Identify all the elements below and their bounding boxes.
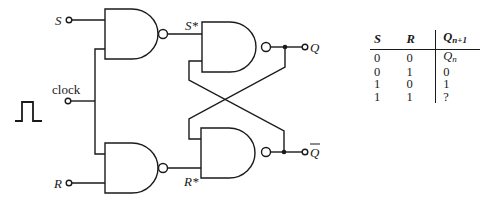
nand-gate-q [202,22,256,72]
cell-s: 1 [370,78,403,91]
nand-gate-s [105,9,158,59]
sr-flip-flop-diagram: S R clock S* R* Q Q [0,0,360,206]
label-s: S [55,13,62,28]
wire-clock-bus [95,49,105,154]
label-q: Q [310,40,320,55]
nand-gate-qbar-bubble [262,148,271,157]
terminal-s[interactable] [66,17,72,23]
nand-gate-r [105,143,158,193]
junction-q [283,45,288,50]
table-row: 0 1 0 [370,66,480,79]
header-r: R [403,30,436,50]
label-r-star: R* [183,174,199,189]
nand-gate-r-bubble [159,164,168,173]
terminal-r[interactable] [66,180,72,186]
truth-table-header-row: S R Qn+1 [370,30,480,50]
label-r: R [53,176,62,191]
clock-pulse-icon [15,102,42,121]
truth-table-grid: S R Qn+1 0 0 Qn 0 1 0 1 0 1 1 [370,30,480,103]
label-qbar: Q [310,145,320,160]
truth-table: S R Qn+1 0 0 Qn 0 1 0 1 0 1 1 [370,30,480,103]
cell-q: 1 [436,78,480,91]
nand-gate-s-bubble [159,30,168,39]
cell-q: ? [436,91,480,104]
cell-s: 1 [370,91,403,104]
nand-gate-q-bubble [262,43,271,52]
cell-s: 0 [370,50,403,66]
header-q-next: Qn+1 [436,30,480,50]
table-row: 0 0 Qn [370,50,480,66]
header-s: S [370,30,403,50]
label-clock: clock [52,82,81,97]
table-row: 1 0 1 [370,78,480,91]
cell-r: 0 [403,78,436,91]
junction-qbar [282,150,287,155]
cell-r: 1 [403,91,436,104]
table-row: 1 1 ? [370,91,480,104]
terminal-qbar[interactable] [302,149,308,155]
nand-gate-qbar [201,128,255,178]
terminal-q[interactable] [302,44,308,50]
cell-r: 0 [403,50,436,66]
cell-q: Qn [436,50,480,66]
feedback-q-to-qbar-gate [189,47,285,139]
terminal-clock[interactable] [65,98,71,104]
label-s-star: S* [185,18,199,33]
